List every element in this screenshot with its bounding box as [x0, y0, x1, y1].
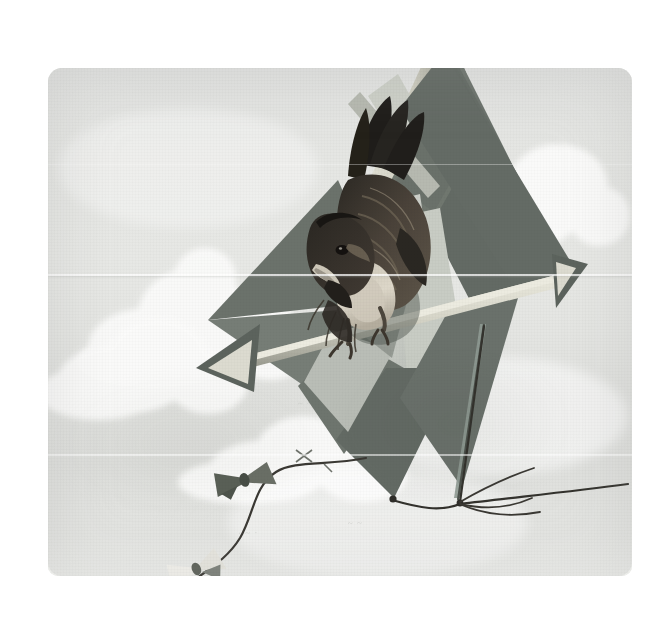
illustration-plate: ~ ~ ~ ~ ~ ~ ~ · ~ · ~ ~	[48, 68, 632, 576]
illustration-page: ~ ~ ~ ~ ~ ~ ~ · ~ · ~ ~	[0, 0, 671, 618]
plate-vignette	[48, 68, 632, 576]
